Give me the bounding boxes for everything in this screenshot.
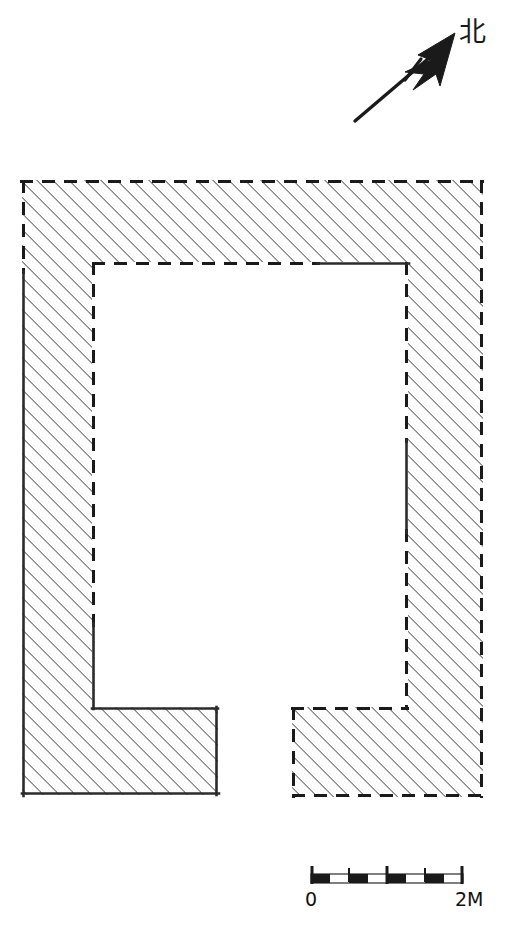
scale-bar-start-label: 0 [305,890,317,909]
plan-drawing-canvas [0,0,509,936]
scale-bar-end-label: 2M [455,890,483,909]
site-plan-figure: 北 0 2M [0,0,509,936]
wall-mass [22,180,483,797]
scale-bar-segment-5 [387,874,406,883]
scale-bar-segment-7 [425,874,444,883]
north-arrow-head [405,33,455,90]
scale-bar-segment-3 [349,874,368,883]
scale-bar-icon [311,866,463,884]
north-arrow-icon [355,33,455,121]
compass-north-label: 北 [459,18,486,45]
wall-hatch-fill [22,180,483,797]
scale-bar-segment-1 [311,874,330,883]
